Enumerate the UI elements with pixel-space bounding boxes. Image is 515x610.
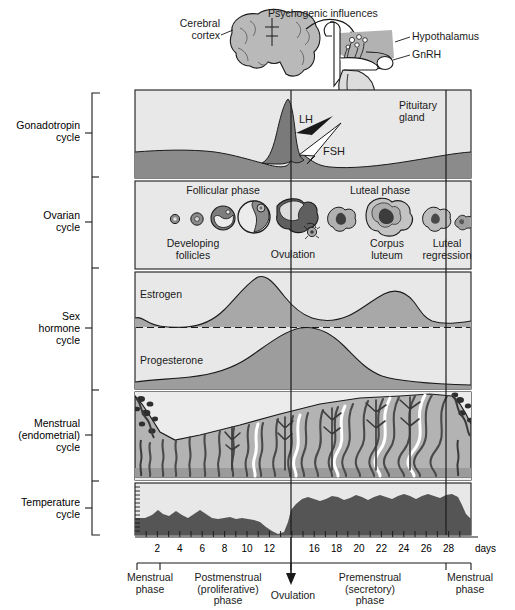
premenstrual-phase-label: Premenstrual (secretory) phase xyxy=(320,572,420,607)
ovulation-arrow xyxy=(286,537,296,585)
day-tick-label: 4 xyxy=(171,543,189,554)
developing-follicles-label: Developing follicles xyxy=(148,238,238,261)
day-tick-label: 18 xyxy=(328,543,346,554)
day-tick-label: 20 xyxy=(350,543,368,554)
day-tick-label: 26 xyxy=(417,543,435,554)
estrogen-label: Estrogen xyxy=(140,289,182,301)
temperature-cycle-label: Temperature cycle xyxy=(0,496,80,520)
psychogenic-influences-label: Psychogenic influences xyxy=(268,8,378,20)
hypothalamus-label: Hypothalamus xyxy=(412,31,479,43)
row-brackets xyxy=(85,93,100,535)
hypothalamus-leader xyxy=(395,37,410,42)
progesterone-label: Progesterone xyxy=(140,355,203,367)
gnrh-label: GnRH xyxy=(412,49,441,61)
day-tick-label: 6 xyxy=(193,543,211,554)
menstrual-cycle-figure: Cerebral cortex Psychogenic influences H… xyxy=(0,0,515,610)
sex-hormone-cycle-label: Sex hormone cycle xyxy=(0,310,80,346)
lh-label: LH xyxy=(299,114,313,126)
day-tick-label: 8 xyxy=(216,543,234,554)
day-tick-label: 16 xyxy=(305,543,323,554)
day-tick-label: 22 xyxy=(372,543,390,554)
menstrual-phase-right-label: Menstrual phase xyxy=(432,572,508,595)
day-tick-label: 28 xyxy=(440,543,458,554)
gonadotropin-cycle-label: Gonadotropin cycle xyxy=(0,119,80,143)
endometrium-illustration xyxy=(134,392,473,480)
fsh-label: FSH xyxy=(323,146,345,158)
day-tick-label: 24 xyxy=(395,543,413,554)
ovarian-cycle-label: Ovarian cycle xyxy=(0,209,80,233)
follicular-phase-label: Follicular phase xyxy=(168,185,278,197)
ovulation-bottom-label: Ovulation xyxy=(258,590,328,602)
gnrh-leader xyxy=(393,55,410,60)
menstrual-phase-left-label: Menstrual phase xyxy=(112,572,188,595)
day-tick-label: 10 xyxy=(238,543,256,554)
cerebral-cortex-label: Cerebral cortex xyxy=(140,18,220,41)
luteal-phase-label: Luteal phase xyxy=(330,185,430,197)
days-unit-label: days xyxy=(475,543,496,554)
corpus-luteum-label: Corpus luteum xyxy=(356,238,418,261)
day-tick-label: 12 xyxy=(260,543,278,554)
pituitary-gland-label: Pituitary gland xyxy=(399,100,437,123)
luteal-regression-label: Luteal regression xyxy=(413,238,481,261)
day-tick-label: 2 xyxy=(148,543,166,554)
phase-bracket xyxy=(137,563,471,570)
menstrual-cycle-label: Menstrual (endometrial) cycle xyxy=(0,417,80,453)
ovulation-ovarian-label: Ovulation xyxy=(258,249,328,261)
